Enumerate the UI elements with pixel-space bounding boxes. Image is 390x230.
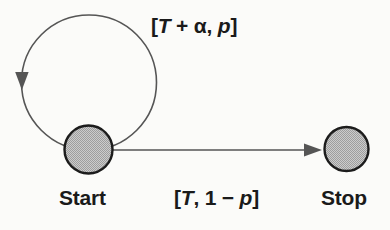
stop-node-label: Stop [321, 186, 367, 210]
self-loop-label-operator: + α, [170, 14, 217, 37]
node-start[interactable] [65, 126, 113, 174]
start-to-stop-label-prob-var: p [240, 186, 253, 209]
node-stop[interactable] [325, 127, 369, 171]
stop-node-circle [325, 127, 369, 171]
start-node-label: Start [59, 186, 106, 210]
start-to-stop-label-time-var: T [181, 186, 194, 209]
self-loop-label-prob-var: p [218, 14, 231, 37]
start-to-stop-label: [T, 1 − p] [174, 186, 259, 210]
self-loop-label-time-var: T [158, 14, 171, 37]
start-to-stop-edge[interactable] [112, 144, 322, 157]
self-loop-label-bracket-close: ] [230, 14, 237, 37]
start-to-stop-label-bracket-close: ] [252, 186, 259, 209]
start-to-stop-label-operator: , 1 − [193, 186, 239, 209]
state-diagram: Start Stop [T + α, p] [T, 1 − p] [0, 0, 390, 230]
start-to-stop-arrowhead-icon [304, 144, 322, 157]
self-loop-arrowhead-icon [15, 72, 28, 90]
self-loop-label-bracket-open: [ [151, 14, 158, 37]
start-to-stop-label-bracket-open: [ [174, 186, 181, 209]
self-loop-label: [T + α, p] [151, 14, 237, 38]
start-node-circle [65, 126, 113, 174]
